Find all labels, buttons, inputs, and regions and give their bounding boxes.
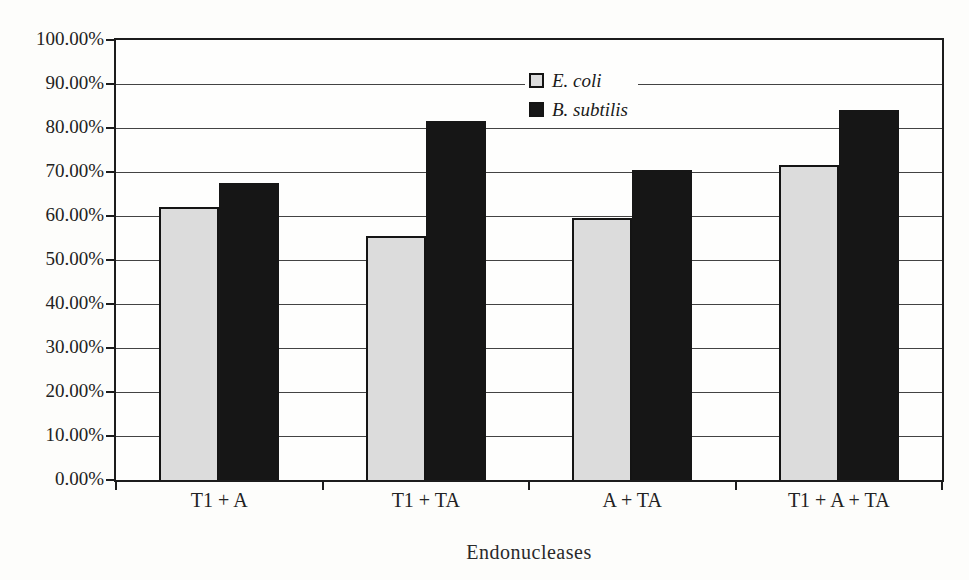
legend-swatch-icon-b-subtilis [529, 102, 544, 117]
plot-area: E. coliB. subtilis [114, 38, 944, 482]
y-axis-label-80: 80.00% [4, 116, 104, 138]
bar-e-coli-a-ta [572, 218, 632, 480]
x-axis-title: Endonucleases [114, 541, 944, 564]
y-axis-tick-10 [106, 435, 114, 437]
y-axis-label-10: 10.00% [4, 424, 104, 446]
gridline-80 [116, 128, 942, 129]
y-axis-tick-0 [106, 479, 114, 481]
x-axis-label-t1-ta: T1 + TA [323, 489, 530, 512]
y-axis-label-60: 60.00% [4, 204, 104, 226]
bar-b-subtilis-t1-ta [426, 121, 486, 480]
legend-swatch-icon-e-coli [529, 73, 544, 88]
y-axis-label-70: 70.00% [4, 160, 104, 182]
y-axis-label-0: 0.00% [4, 468, 104, 490]
bar-b-subtilis-t1-a [219, 183, 279, 480]
y-axis-label-40: 40.00% [4, 292, 104, 314]
y-axis-tick-30 [106, 347, 114, 349]
bar-e-coli-t1-a [159, 207, 219, 480]
y-axis-tick-40 [106, 303, 114, 305]
legend: E. coliB. subtilis [525, 64, 638, 126]
x-axis-label-t1-a: T1 + A [116, 489, 323, 512]
y-axis-label-100: 100.00% [4, 28, 104, 50]
legend-item-e-coli: E. coli [529, 66, 628, 95]
x-axis-label-a-ta: A + TA [529, 489, 736, 512]
bar-b-subtilis-a-ta [632, 170, 692, 480]
bar-e-coli-t1-ta [366, 236, 426, 480]
y-axis-label-90: 90.00% [4, 72, 104, 94]
y-axis-label-50: 50.00% [4, 248, 104, 270]
y-axis-tick-50 [106, 259, 114, 261]
x-axis-label-t1-a-ta: T1 + A + TA [736, 489, 943, 512]
bar-b-subtilis-t1-a-ta [839, 110, 899, 480]
y-axis-tick-60 [106, 215, 114, 217]
legend-item-b-subtilis: B. subtilis [529, 95, 628, 124]
y-axis-tick-70 [106, 171, 114, 173]
legend-label-e-coli: E. coli [552, 70, 602, 92]
y-axis-tick-100 [106, 39, 114, 41]
y-axis-label-30: 30.00% [4, 336, 104, 358]
legend-label-b-subtilis: B. subtilis [552, 99, 628, 121]
bar-chart-figure: E. coliB. subtilis Endonucleases 0.00%10… [0, 0, 969, 580]
y-axis-label-20: 20.00% [4, 380, 104, 402]
y-axis-tick-90 [106, 83, 114, 85]
bar-e-coli-t1-a-ta [779, 165, 839, 480]
y-axis-tick-20 [106, 391, 114, 393]
y-axis-tick-80 [106, 127, 114, 129]
